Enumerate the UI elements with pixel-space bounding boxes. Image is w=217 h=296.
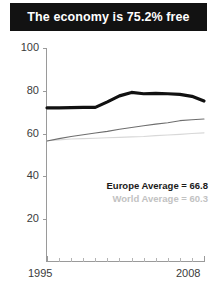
- economic-freedom-chart: The economy is 75.2% free 10080604020 19…: [0, 0, 217, 296]
- legend-europe-average: Europe Average = 66.8: [100, 179, 208, 192]
- country-score-line: [47, 92, 204, 107]
- plot-area: 10080604020 1995 2008 Europe Average = 6…: [0, 0, 217, 296]
- series-container: [0, 0, 217, 296]
- legend: Europe Average = 66.8 World Average = 60…: [100, 179, 208, 205]
- legend-world-average: World Average = 60.3: [100, 192, 208, 205]
